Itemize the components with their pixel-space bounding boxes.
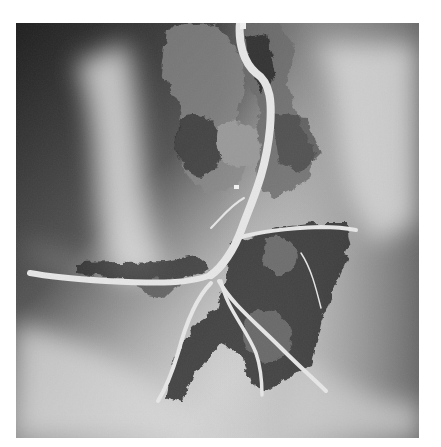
- delta-aerial-photo: [16, 23, 419, 438]
- film-grain: [16, 23, 419, 438]
- delta-photo-svg: [16, 23, 419, 438]
